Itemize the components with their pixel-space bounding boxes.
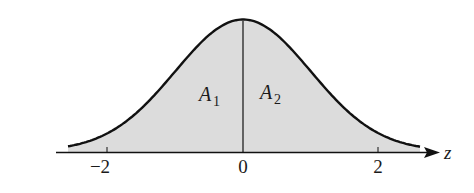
region-label-a2: A bbox=[258, 81, 273, 103]
tick-label-2: 2 bbox=[373, 156, 383, 177]
axis-label-z: z bbox=[443, 142, 452, 163]
shaded-area bbox=[68, 20, 420, 153]
region-label-a1-sub: 1 bbox=[213, 94, 220, 109]
tick-label-0: 0 bbox=[238, 156, 248, 177]
tick-label-neg2: −2 bbox=[90, 156, 110, 177]
normal-curve-diagram: −2 0 2 z A 1 A 2 bbox=[0, 0, 474, 193]
region-label-a1: A bbox=[197, 83, 212, 105]
region-label-a2-sub: 2 bbox=[274, 92, 281, 107]
